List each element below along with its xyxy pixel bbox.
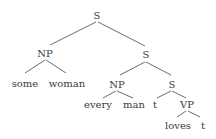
- edge-root-np: [50, 22, 96, 45]
- leaf-woman: woman: [49, 78, 86, 89]
- leaf-every: every: [84, 99, 112, 110]
- edge-np-man: [117, 91, 133, 98]
- edge-s-vp: [172, 91, 186, 98]
- edge-s-s: [146, 62, 171, 75]
- leaf-man: man: [123, 99, 145, 110]
- tree-edges: [25, 22, 200, 117]
- edge-vp-t: [188, 111, 200, 117]
- edge-np-some: [25, 60, 45, 73]
- tree-nodes: S NP some woman S NP every man S t VP lo…: [12, 10, 205, 131]
- leaf-some: some: [12, 78, 39, 89]
- edge-root-s: [98, 22, 145, 46]
- node-root-s: S: [94, 10, 101, 21]
- node-np-subject: NP: [37, 48, 53, 59]
- edge-s-np: [120, 62, 145, 75]
- node-s-inner: S: [143, 49, 150, 60]
- edge-vp-loves: [177, 111, 186, 117]
- leaf-trace-t2: t: [201, 120, 205, 131]
- node-np-object: NP: [109, 79, 125, 90]
- edge-s-t: [157, 91, 171, 98]
- edge-np-woman: [46, 60, 66, 73]
- syntax-tree-diagram: S NP some woman S NP every man S t VP lo…: [0, 0, 216, 139]
- node-vp: VP: [179, 99, 194, 110]
- node-s-lowest: S: [169, 79, 176, 90]
- leaf-loves: loves: [165, 120, 191, 131]
- leaf-trace-t1: t: [153, 99, 157, 110]
- edge-np-every: [103, 91, 116, 98]
